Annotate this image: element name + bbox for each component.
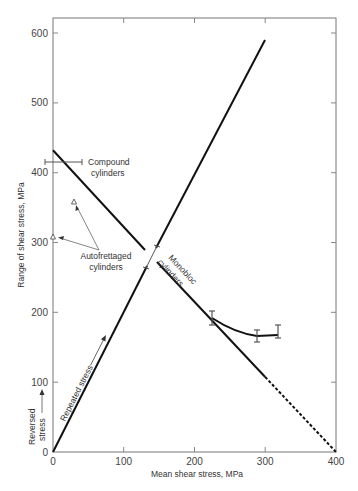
monobloc-label-group: Monobloc cylinders xyxy=(156,250,200,295)
x-tick-label: 300 xyxy=(257,456,274,467)
y-tick-label: 0 xyxy=(42,447,48,458)
x-axis-title: Mean shear stress, MPa xyxy=(151,469,243,479)
y-axis-ticks xyxy=(53,33,336,382)
repeated-stress-arrow xyxy=(90,339,104,366)
autofrettaged-label: cylinders xyxy=(89,262,123,272)
x-tick-label: 0 xyxy=(50,456,56,467)
chart: 0 100 200 300 400 500 600 0 100 200 300 … xyxy=(0,0,358,491)
y-tick-label: 200 xyxy=(31,307,48,318)
compound-label: Compound xyxy=(88,157,130,167)
y-tick-label: 600 xyxy=(31,28,48,39)
reversed-stress-label-group: Reversed stress xyxy=(27,389,47,445)
arrowhead-icon xyxy=(40,389,45,395)
arrowhead-icon xyxy=(58,236,64,240)
autofrettaged-arrows xyxy=(60,207,99,250)
y-tick-label: 100 xyxy=(31,377,48,388)
x-tick-label: 200 xyxy=(186,456,203,467)
y-axis-title: Range of shear stress, MPa xyxy=(16,182,26,288)
autofrettaged-marker-triangle xyxy=(51,234,56,239)
compound-error-bar xyxy=(45,159,82,165)
arrowhead-icon xyxy=(101,334,108,342)
y-tick-label: 300 xyxy=(31,237,48,248)
autofrettaged-label: Autofrettaged xyxy=(80,251,131,261)
plot-frame xyxy=(53,18,336,452)
x-tick-label: 400 xyxy=(328,456,345,467)
autofrettaged-marker-triangle xyxy=(72,199,77,204)
repeated-stress-label: Repeated stress xyxy=(58,363,95,423)
compound-label: cylinders xyxy=(91,168,125,178)
x-axis-ticks xyxy=(124,18,266,452)
reversed-stress-label: Reversed xyxy=(27,408,37,445)
reversed-stress-label: stress xyxy=(37,418,47,441)
monobloc-error-bars xyxy=(209,311,281,342)
repeated-stress-label-group: Repeated stress xyxy=(58,333,110,423)
y-tick-label: 500 xyxy=(31,97,48,108)
monobloc-test-curve xyxy=(212,318,278,336)
monobloc-extrapolated-line xyxy=(265,377,336,452)
x-tick-label: 100 xyxy=(115,456,132,467)
y-tick-label: 400 xyxy=(31,167,48,178)
